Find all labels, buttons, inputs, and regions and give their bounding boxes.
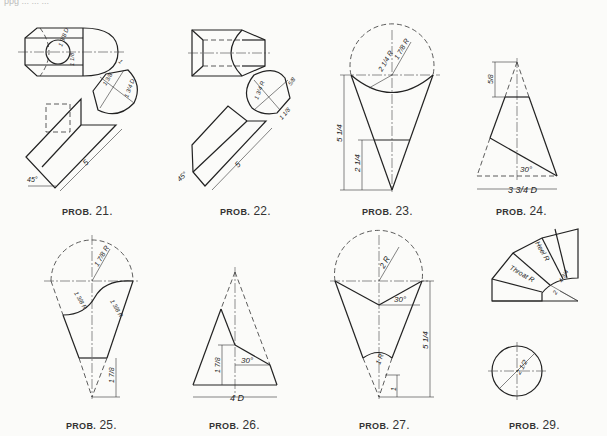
problem-27-caption: PROB. 27. [359, 418, 410, 432]
dim-25-h1: 1 7/8 [108, 367, 115, 383]
dim-22-d3: 1 1/8 [278, 106, 292, 121]
dim-21-d2: 1 1/8 [69, 52, 75, 66]
dim-26-base: 4 D [230, 393, 245, 403]
dim-27-h2: 1 [390, 387, 397, 391]
problem-29-drawing: Heel R Throat R 4 3/4 2 2 1/2 [450, 215, 607, 436]
dim-29-d1: 2 1/2 [514, 358, 528, 376]
dim-23-r1: 2 1/4 R [376, 49, 394, 73]
dim-21-d3: 1 [117, 58, 123, 65]
problem-26-caption: PROB. 26. [209, 418, 260, 432]
problem-23: 2 1/4 R 1 7/8 R 5 1/4 2 1/4 PROB. 23. [300, 0, 450, 215]
problem-27-drawing: 2 R 30° 1 R 5 1/4 1 [300, 215, 450, 436]
dim-22-length: 5 [233, 160, 243, 170]
dim-27-h1: 5 1/4 [421, 331, 430, 349]
dim-21-d4: 1 3/8 [102, 71, 114, 86]
dim-29-r1: 4 3/4 [558, 268, 570, 283]
dim-24-h1: 5/8 [487, 74, 494, 84]
textbook-page: ppg ... ... ... 1 3/8 D 1 1/8 1 1 3/8 1 … [0, 0, 607, 436]
dim-23-r2: 1 7/8 R [393, 37, 410, 60]
dim-23-h1: 5 1/4 [335, 124, 344, 142]
dim-27-r1: 2 R [377, 255, 392, 271]
dim-21-angle: 45° [27, 176, 38, 183]
dim-29-throat: Throat R [509, 264, 536, 284]
dim-21-d1: 1 3/8 D [57, 26, 69, 47]
dim-24-base: 3 3/4 D [508, 185, 538, 195]
dim-26-angle: 30° [241, 356, 254, 365]
dim-25-r3: 1 3/8 R [109, 299, 124, 319]
problem-29: Heel R Throat R 4 3/4 2 2 1/2 PROB. 29. [450, 215, 607, 436]
problem-26-drawing: 1 7/8 30° 4 D [150, 215, 300, 436]
dim-27-angle: 30° [394, 295, 407, 304]
problem-25-caption: PROB. 25. [66, 418, 117, 432]
dim-26-h1: 1 7/8 [214, 357, 221, 373]
dim-29-r2: 2 [551, 289, 559, 296]
dim-25-r2: 1 3/8 R [73, 291, 88, 311]
problem-29-caption: PROB. 29. [509, 418, 560, 432]
problem-21: 1 3/8 D 1 1/8 1 1 3/8 1 3/4 D 5 45° PROB… [0, 0, 150, 215]
problem-25-drawing: 1 7/8 R 1 3/8 R 1 3/8 R 1 7/8 [0, 215, 150, 436]
problem-24-drawing: 5/8 30° 3 3/4 D [450, 0, 607, 215]
dim-22-d2: 5/8 [287, 76, 297, 87]
dim-22-angle: 45° [176, 170, 189, 183]
dim-21-length: 5 [81, 158, 91, 168]
dim-21-d5: 1 3/4 D [123, 77, 135, 98]
problem-25: 1 7/8 R 1 3/8 R 1 3/8 R 1 7/8 PROB. 25. [0, 215, 150, 436]
dim-24-angle: 30° [520, 165, 533, 174]
problem-22-drawing: 1 3/4 R 5/8 1 1/8 5 45° [150, 0, 300, 215]
problem-27: 2 R 30° 1 R 5 1/4 1 PROB. 27. [300, 215, 450, 436]
dim-27-r2: 1 R [374, 353, 384, 366]
problem-21-drawing: 1 3/8 D 1 1/8 1 1 3/8 1 3/4 D 5 45° [0, 0, 150, 215]
problem-26: 1 7/8 30° 4 D PROB. 26. [150, 215, 300, 436]
dim-22-d1: 1 3/4 R [253, 79, 265, 100]
problem-24: 5/8 30° 3 3/4 D PROB. 24. [450, 0, 607, 215]
problem-22: 1 3/4 R 5/8 1 1/8 5 45° PROB. 22. [150, 0, 300, 215]
dim-23-h2: 2 1/4 [353, 154, 362, 173]
problem-23-drawing: 2 1/4 R 1 7/8 R 5 1/4 2 1/4 [300, 0, 450, 215]
